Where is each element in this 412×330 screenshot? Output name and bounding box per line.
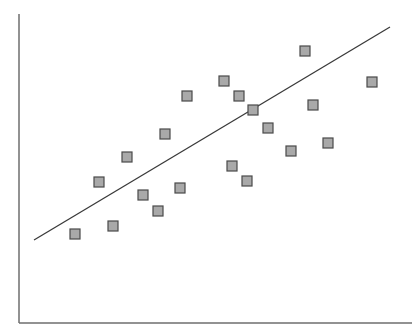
- data-points: [70, 46, 377, 239]
- axes: [19, 14, 412, 323]
- data-point-square: [248, 105, 258, 115]
- data-point-square: [300, 46, 310, 56]
- data-point-square: [242, 176, 252, 186]
- trendline: [34, 27, 390, 240]
- data-point-square: [175, 183, 185, 193]
- data-point-square: [367, 77, 377, 87]
- data-point-square: [323, 138, 333, 148]
- trendline-path: [34, 27, 390, 240]
- scatter-chart: [0, 0, 412, 330]
- data-point-square: [160, 129, 170, 139]
- data-point-square: [182, 91, 192, 101]
- data-point-square: [227, 161, 237, 171]
- data-point-square: [234, 91, 244, 101]
- data-point-square: [94, 177, 104, 187]
- data-point-square: [308, 100, 318, 110]
- data-point-square: [70, 229, 80, 239]
- data-point-square: [153, 206, 163, 216]
- data-point-square: [138, 190, 148, 200]
- data-point-square: [108, 221, 118, 231]
- data-point-square: [263, 123, 273, 133]
- data-point-square: [219, 76, 229, 86]
- data-point-square: [122, 152, 132, 162]
- data-point-square: [286, 146, 296, 156]
- chart-canvas: [0, 0, 412, 330]
